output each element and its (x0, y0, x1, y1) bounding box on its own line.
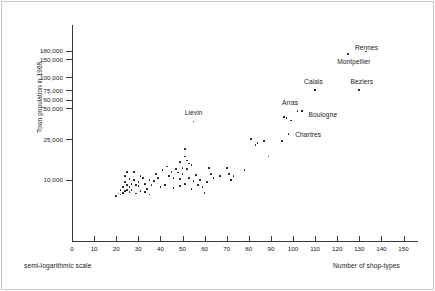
x-tick-80 (249, 236, 250, 242)
data-point (153, 180, 155, 182)
x-tick-label: 100 (281, 245, 305, 252)
data-point (219, 175, 221, 177)
data-point (140, 190, 142, 192)
data-point (314, 89, 316, 91)
data-point (204, 192, 206, 194)
data-point (131, 183, 133, 185)
data-point (365, 51, 367, 53)
data-point (133, 171, 135, 173)
data-point (164, 184, 166, 186)
data-point (195, 174, 197, 176)
data-point (188, 177, 190, 179)
data-point (184, 183, 186, 185)
data-point (228, 173, 230, 175)
data-point (182, 173, 184, 175)
x-axis-title: Number of shop-types (333, 262, 400, 269)
data-point (126, 184, 128, 186)
data-point (288, 133, 290, 135)
data-point (160, 186, 162, 188)
data-point (162, 169, 164, 171)
y-tick-180000 (66, 51, 73, 52)
data-point (202, 186, 204, 188)
y-tick-label: 100,000 (20, 74, 63, 81)
data-point (193, 121, 195, 123)
x-axis-line (72, 241, 418, 242)
data-point (286, 117, 288, 119)
data-point (347, 53, 349, 55)
data-point (144, 191, 146, 193)
x-tick-20 (116, 236, 117, 242)
data-point (199, 179, 201, 181)
x-tick-label: 70 (215, 245, 239, 252)
data-point (142, 177, 144, 179)
x-tick-label: 140 (369, 245, 393, 252)
x-tick-label: 150 (392, 245, 416, 252)
x-tick-label: 0 (60, 245, 84, 252)
y-tick-75000 (66, 90, 73, 91)
data-point (138, 181, 140, 183)
data-point (151, 184, 153, 186)
annotation-label-chartres: Chartres (295, 131, 321, 138)
data-point (122, 186, 124, 188)
data-point (138, 185, 140, 187)
data-point (184, 156, 186, 158)
data-point (126, 171, 128, 173)
data-point (149, 194, 151, 196)
x-tick-10 (94, 236, 95, 242)
data-point (233, 175, 235, 177)
data-point (244, 169, 246, 171)
x-tick-130 (359, 236, 360, 242)
data-point (173, 187, 175, 189)
x-tick-label: 80 (237, 245, 261, 252)
annotation-label-lievin: Lievin (185, 109, 203, 116)
data-point (210, 173, 212, 175)
data-point (358, 89, 360, 91)
annotation-label-beziers: Beziers (351, 78, 374, 85)
data-point (290, 120, 292, 122)
x-tick-70 (227, 236, 228, 242)
data-point (129, 186, 131, 188)
x-tick-label: 40 (148, 245, 172, 252)
data-point (124, 181, 126, 183)
data-point (250, 138, 252, 140)
data-point (135, 193, 137, 195)
annotation-label-arras: Arras (282, 99, 298, 106)
y-tick-60000 (66, 100, 73, 101)
data-point (213, 177, 215, 179)
data-point (263, 140, 265, 142)
data-point (173, 177, 175, 179)
y-tick-label: 75,000 (20, 87, 63, 94)
y-axis-line (72, 25, 73, 242)
data-point (191, 188, 193, 190)
data-point (255, 144, 257, 146)
x-tick-120 (337, 236, 338, 242)
annotation-label-montpellier: Montpellier (337, 58, 370, 65)
y-tick-50000 (66, 108, 73, 109)
annotation-label-calais: Calais (304, 78, 323, 85)
y-tick-label: 150,000 (20, 56, 63, 63)
y-tick-label: 60,000 (20, 96, 63, 103)
scale-note: semi-logarithmic scale (24, 262, 91, 269)
plot-area: Town population in 1968 Number of shop-t… (0, 0, 435, 291)
data-point (230, 179, 232, 181)
data-point (186, 168, 188, 170)
data-point (144, 183, 146, 185)
y-tick-label: 50,000 (20, 105, 63, 112)
y-tick-label: 25,000 (20, 136, 63, 143)
data-point (182, 167, 184, 169)
x-tick-50 (183, 236, 184, 242)
data-point (179, 161, 181, 163)
data-point (191, 164, 193, 166)
data-point (186, 160, 188, 162)
data-point (297, 110, 299, 112)
x-tick-60 (205, 236, 206, 242)
x-tick-label: 90 (259, 245, 283, 252)
data-point (184, 148, 186, 150)
data-point (126, 189, 128, 191)
annotation-label-rennes: Rennes (355, 44, 378, 51)
y-tick-10000 (66, 180, 73, 181)
data-point (133, 179, 135, 181)
y-tick-25000 (66, 139, 73, 140)
data-point (129, 178, 131, 180)
x-tick-90 (271, 236, 272, 242)
